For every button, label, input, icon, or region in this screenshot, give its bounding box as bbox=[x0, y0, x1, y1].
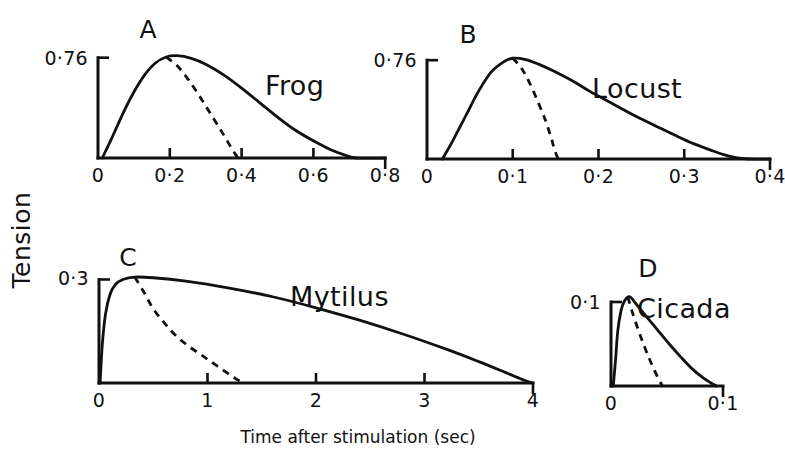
y-axis-title: Tension bbox=[7, 192, 36, 290]
panel-a-x-tick-label-4: 0·8 bbox=[370, 164, 401, 186]
panels-group: 00·20·40·60·80·76AFrog00·10·20·30·40·76B… bbox=[44, 15, 785, 414]
panel-b-y-tick-label: 0·76 bbox=[373, 49, 417, 71]
panel-c-species-label: Mytilus bbox=[290, 281, 389, 312]
panel-a-curve-solid bbox=[102, 56, 385, 159]
figure-canvas: 00·20·40·60·80·76AFrog00·10·20·30·40·76B… bbox=[0, 0, 785, 461]
panel-b-x-tick-label-2: 0·2 bbox=[583, 165, 614, 187]
figure-root: 00·20·40·60·80·76AFrog00·10·20·30·40·76B… bbox=[0, 0, 785, 461]
panel-c-x-tick-label-0: 0 bbox=[93, 389, 105, 411]
panel-a-x-tick-label-2: 0·4 bbox=[226, 164, 257, 186]
panel-c-x-tick-label-1: 1 bbox=[201, 389, 213, 411]
panel-d-y-tick-label: 0·1 bbox=[570, 291, 601, 313]
panel-d-species-label: Cicada bbox=[637, 293, 731, 324]
panel-a-letter: A bbox=[139, 15, 156, 44]
panel-d-letter: D bbox=[638, 254, 657, 283]
panel-a-x-tick-label-0: 0 bbox=[92, 164, 104, 186]
panel-a-x-tick-label-3: 0·6 bbox=[298, 164, 329, 186]
panel-c-y-tick-label: 0·3 bbox=[58, 267, 89, 289]
panel-a-y-tick-label: 0·76 bbox=[44, 47, 88, 69]
panel-c-x-tick-label-4: 4 bbox=[527, 389, 539, 411]
panel-a-curve-dashed bbox=[166, 57, 238, 158]
panel-d-x-tick-label-1: 0·1 bbox=[707, 392, 738, 414]
panel-b-letter: B bbox=[459, 20, 476, 49]
panel-c-curve-dashed bbox=[135, 277, 244, 383]
panel-c-x-tick-label-3: 3 bbox=[418, 389, 430, 411]
panel-c-letter: C bbox=[119, 243, 136, 272]
panel-a-x-tick-label-1: 0·2 bbox=[154, 164, 185, 186]
panel-c-x-tick-label-2: 2 bbox=[310, 389, 322, 411]
panel-a-species-label: Frog bbox=[265, 70, 324, 101]
panel-b-x-tick-label-3: 0·3 bbox=[669, 165, 700, 187]
panel-b-species-label: Locust bbox=[592, 73, 682, 104]
panel-b-x-tick-label-0: 0 bbox=[421, 165, 433, 187]
panel-b-curve-dashed bbox=[513, 58, 558, 159]
x-axis-title: Time after stimulation (sec) bbox=[239, 427, 475, 447]
panel-b-x-tick-label-1: 0·1 bbox=[497, 165, 528, 187]
panel-d-x-tick-label-0: 0 bbox=[605, 392, 617, 414]
panel-b-x-tick-label-4: 0·4 bbox=[754, 165, 785, 187]
